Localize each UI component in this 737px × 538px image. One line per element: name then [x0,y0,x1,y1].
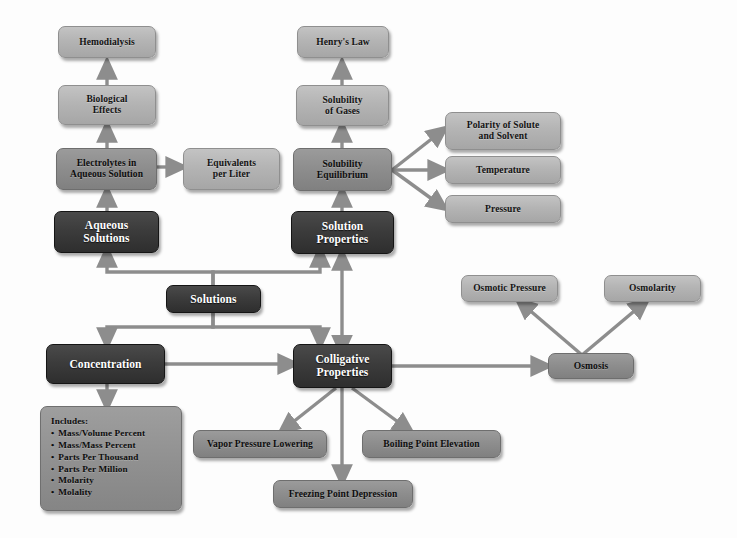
edge-colligative-vapor [283,388,336,430]
includes-item: Molality [51,487,181,497]
includes-item: Mass/Mass Percent [51,440,181,450]
node-osmolarity-label: Osmolarity [605,283,700,294]
node-electrolytes[interactable]: Electrolytes in Aqueous Solution [56,148,157,190]
node-biological-effects-label: Biological Effects [59,94,155,115]
edge-osmosis-osmolarity [582,302,645,355]
node-freezing-point-depression-label: Freezing Point Depression [274,489,412,500]
node-solution-properties-label: Solution Properties [292,220,393,246]
includes-item: Mass/Volume Percent [51,428,181,438]
node-temperature-label: Temperature [446,165,560,176]
node-solubility-of-gases[interactable]: Solubility of Gases [296,85,389,126]
node-solution-properties[interactable]: Solution Properties [291,211,394,254]
edge-osmosis-osmoticpressure [520,302,582,355]
node-includes-list[interactable]: Includes: Mass/Volume Percent Mass/Mass … [40,406,182,511]
edge-colligative-boiling [352,388,409,430]
node-solutions-root-label: Solutions [167,293,260,306]
node-hemodialysis-label: Hemodialysis [59,37,155,48]
node-solubility-equilibrium-label: Solubility Equilibrium [294,159,391,180]
edge-solutions-aqueous [107,252,213,285]
node-osmotic-pressure[interactable]: Osmotic Pressure [461,275,558,302]
node-pressure-label: Pressure [446,204,560,215]
edge-solubility-pressure [392,170,443,207]
node-equivalents-per-liter-label: Equivalents per Liter [184,158,279,179]
node-solubility-of-gases-label: Solubility of Gases [297,95,388,116]
node-pressure[interactable]: Pressure [445,195,561,223]
node-equivalents-per-liter[interactable]: Equivalents per Liter [183,148,280,190]
node-polarity-of-solute-and-solvent[interactable]: Polarity of Solute and Solvent [445,112,561,150]
node-osmolarity[interactable]: Osmolarity [604,275,701,302]
node-freezing-point-depression[interactable]: Freezing Point Depression [273,480,413,508]
node-boiling-point-elevation-label: Boiling Point Elevation [363,439,500,450]
includes-list-items: Mass/Volume Percent Mass/Mass Percent Pa… [51,428,181,497]
node-vapor-pressure-lowering[interactable]: Vapor Pressure Lowering [193,430,327,458]
node-osmotic-pressure-label: Osmotic Pressure [462,283,557,294]
includes-item: Parts Per Thousand [51,452,181,462]
node-henrys-law-label: Henry's Law [298,37,388,48]
includes-item: Parts Per Million [51,464,181,474]
edge-solutions-colligative [213,312,320,343]
concept-map-canvas: Hemodialysis Biological Effects Electrol… [0,0,737,538]
node-biological-effects[interactable]: Biological Effects [58,85,156,125]
node-henrys-law[interactable]: Henry's Law [297,26,389,58]
node-temperature[interactable]: Temperature [445,156,561,184]
node-aqueous-solutions-label: Aqueous Solutions [55,219,158,245]
includes-list-title: Includes: [51,416,181,426]
node-electrolytes-label: Electrolytes in Aqueous Solution [57,158,156,179]
node-vapor-pressure-lowering-label: Vapor Pressure Lowering [194,439,326,450]
edge-solutions-concentration [107,312,213,343]
node-boiling-point-elevation[interactable]: Boiling Point Elevation [362,430,501,458]
node-colligative-properties[interactable]: Colligative Properties [293,344,392,388]
node-aqueous-solutions[interactable]: Aqueous Solutions [54,211,159,253]
node-solutions-root[interactable]: Solutions [166,285,261,313]
edge-solubility-polarity [392,130,443,170]
node-polarity-label: Polarity of Solute and Solvent [446,120,560,141]
node-hemodialysis[interactable]: Hemodialysis [58,26,156,58]
node-solubility-equilibrium[interactable]: Solubility Equilibrium [293,148,392,191]
includes-item: Molarity [51,475,181,485]
node-concentration[interactable]: Concentration [46,344,165,384]
node-osmosis[interactable]: Osmosis [548,353,634,379]
node-colligative-properties-label: Colligative Properties [294,353,391,379]
edge-solutions-solutionprops [213,252,320,285]
node-concentration-label: Concentration [47,358,164,371]
node-osmosis-label: Osmosis [549,361,633,372]
